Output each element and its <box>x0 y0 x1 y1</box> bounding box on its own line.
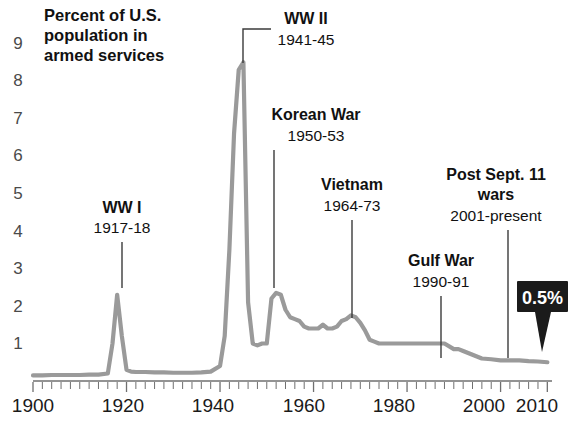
annotation-post911-name-line-1: Post Sept. 11 <box>446 166 546 183</box>
annotation-vietnam-name: Vietnam <box>321 176 383 193</box>
y-tick-label-5: 5 <box>13 184 22 203</box>
annotation-ww2-leader-line <box>243 29 271 63</box>
x-axis-minor-ticks <box>33 382 547 392</box>
annotation-ww1: WW I 1917-18 <box>94 199 151 288</box>
x-tick-label-1900: 1900 <box>12 395 54 416</box>
x-tick-label-1920: 1920 <box>102 395 144 416</box>
x-tick-label-1960: 1960 <box>283 395 325 416</box>
x-tick-label-1940: 1940 <box>192 395 234 416</box>
x-axis-tick-labels: 1900 1920 1940 1960 1980 2000 2010 <box>12 395 558 416</box>
y-tick-label-7: 7 <box>13 109 22 128</box>
y-tick-label-2: 2 <box>13 297 22 316</box>
chart-title-line-1: Percent of U.S. <box>44 6 161 24</box>
y-tick-label-8: 8 <box>13 71 22 90</box>
annotation-korea-name: Korean War <box>271 106 360 123</box>
annotation-post911-name-line-2: wars <box>477 186 515 203</box>
annotation-vietnam: Vietnam 1964-73 <box>321 176 383 318</box>
y-axis-tick-labels: 9 8 7 6 5 4 3 2 1 <box>13 34 22 353</box>
annotation-gulf-name: Gulf War <box>408 252 474 269</box>
annotation-ww1-name: WW I <box>102 199 141 216</box>
y-tick-label-1: 1 <box>13 334 22 353</box>
y-tick-label-3: 3 <box>13 259 22 278</box>
chart-title-line-2: population in <box>44 26 148 44</box>
chart-title: Percent of U.S. population in armed serv… <box>44 6 164 64</box>
x-tick-label-1980: 1980 <box>373 395 415 416</box>
annotation-ww2-name: WW II <box>284 10 328 27</box>
chart-title-line-3: armed services <box>44 46 164 64</box>
annotation-vietnam-years: 1964-73 <box>324 197 381 214</box>
annotation-korea-years: 1950-53 <box>288 127 345 144</box>
annotation-post911-years: 2001-present <box>450 207 542 224</box>
y-tick-label-9: 9 <box>13 34 22 53</box>
armed-services-line-chart: Percent of U.S. population in armed serv… <box>0 0 577 428</box>
annotation-ww2: WW II 1941-45 <box>243 10 334 63</box>
x-axis <box>33 381 552 392</box>
callout-value-badge: 0.5% <box>517 281 568 352</box>
callout-badge-label: 0.5% <box>522 288 563 308</box>
annotation-ww2-years: 1941-45 <box>278 31 335 48</box>
y-tick-label-6: 6 <box>13 146 22 165</box>
annotation-gulf-years: 1990-91 <box>413 273 470 290</box>
x-tick-label-2000: 2000 <box>463 395 505 416</box>
x-tick-label-2010: 2010 <box>516 395 558 416</box>
annotation-ww1-years: 1917-18 <box>94 219 151 236</box>
callout-badge-pointer <box>535 312 551 352</box>
chart-container: Percent of U.S. population in armed serv… <box>0 0 577 428</box>
y-tick-label-4: 4 <box>13 222 22 241</box>
